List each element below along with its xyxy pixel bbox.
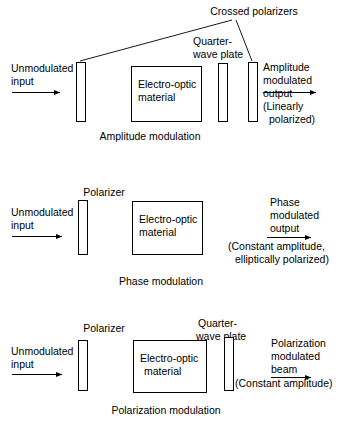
quarter-wave-plate-label-line2: wave plate — [192, 48, 243, 60]
input-label-line2-polarization: input — [11, 358, 34, 370]
output-label-line2: modulated — [263, 74, 312, 86]
section-caption-polarization: Polarization modulation — [111, 404, 220, 416]
second-crossed-polarizer — [249, 63, 258, 122]
material-label-line2: material — [138, 91, 175, 103]
quarter-wave-plate-label-line1: Quarter- — [193, 35, 233, 47]
quarter-wave-plate — [219, 64, 228, 122]
material-label-line2-phase: material — [139, 226, 176, 238]
output-label-line5: polarized) — [269, 113, 315, 125]
input-label-line2: input — [11, 75, 34, 87]
output-label-line5-phase: elliptically polarized) — [235, 253, 329, 265]
output-label-line4-polarization: (Constant amplitude) — [235, 377, 332, 389]
output-label-line3-phase: output — [270, 222, 299, 234]
polarizer-label-polarization: Polarizer — [83, 322, 125, 334]
output-label-line1-polarization: Polarization — [271, 337, 326, 349]
material-label-line1: Electro-optic — [138, 78, 196, 90]
section-caption-phase: Phase modulation — [119, 275, 203, 287]
polarizer-polarization — [79, 341, 88, 391]
crossed-polarizers-label: Crossed polarizers — [210, 5, 298, 17]
input-label-line2-phase: input — [11, 219, 34, 231]
output-label-line1: Amplitude — [263, 61, 310, 73]
figure-canvas: Crossed polarizers Unmodulated input Ele… — [0, 0, 339, 428]
quarter-wave-plate-polarization — [225, 338, 234, 391]
input-label-line1-polarization: Unmodulated — [11, 345, 74, 357]
material-label-line1-polarization: Electro-optic — [140, 352, 198, 364]
output-label-line3-polarization: beam — [271, 363, 298, 375]
material-label-line1-phase: Electro-optic — [139, 213, 197, 225]
polarizer-phase — [79, 201, 88, 255]
section-caption-amplitude: Amplitude modulation — [100, 130, 201, 142]
quarter-wave-plate-label-line1-polarization: Quarter- — [198, 317, 238, 329]
input-label-line1: Unmodulated — [11, 62, 74, 74]
output-label-line4-phase: (Constant amplitude, — [228, 240, 325, 252]
output-label-line2-phase: modulated — [270, 209, 319, 221]
optical-modulation-diagram: Crossed polarizers Unmodulated input Ele… — [0, 0, 339, 428]
input-label-line1-phase: Unmodulated — [11, 206, 74, 218]
output-label-line1-phase: Phase — [270, 196, 300, 208]
output-label-line4: (Linearly — [263, 100, 304, 112]
polarizer-label-phase: Polarizer — [83, 186, 125, 198]
material-label-line2-polarization: material — [144, 365, 181, 377]
output-label-line2-polarization: modulated — [271, 350, 320, 362]
first-crossed-polarizer — [77, 63, 86, 122]
